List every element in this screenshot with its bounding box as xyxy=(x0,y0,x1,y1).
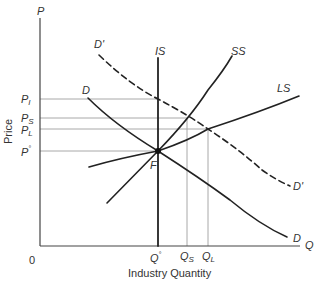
price-label-p-l: PL xyxy=(21,125,33,138)
quantity-label-q-l: QL xyxy=(202,251,215,264)
origin-label: 0 xyxy=(29,255,35,266)
curve-label-d-top: D xyxy=(82,85,90,96)
price-label-p-l-sub: L xyxy=(28,129,32,138)
curve-label-ls: LS xyxy=(277,83,290,94)
curve-label-d-bottom: D xyxy=(293,233,301,244)
point-label-f: F xyxy=(150,160,157,171)
equilibrium-point-f xyxy=(155,148,161,154)
quantity-label-q-zero-base: Q xyxy=(150,252,159,264)
price-label-p-zero-sup: ° xyxy=(28,145,31,152)
y-axis-title: Price xyxy=(3,119,14,144)
price-label-p-zero: P° xyxy=(21,145,31,158)
quantity-label-q-zero-sup: ° xyxy=(159,251,162,258)
price-label-p-i-sub: I xyxy=(28,98,30,107)
y-axis-symbol: P xyxy=(37,6,44,17)
axes xyxy=(40,18,300,246)
curve-label-d-prime-top: D' xyxy=(94,39,104,50)
quantity-label-q-l-base: Q xyxy=(202,250,211,262)
quantity-label-q-zero: Q° xyxy=(150,251,161,264)
curve-label-d-prime-bottom: D' xyxy=(293,181,303,192)
x-axis-symbol: Q xyxy=(305,240,314,251)
curve-label-is: IS xyxy=(155,46,165,57)
quantity-label-q-s-sub: S xyxy=(189,255,194,264)
price-label-p-i: PI xyxy=(21,94,31,107)
quantity-label-q-s: QS xyxy=(180,251,194,264)
quantity-label-q-l-sub: L xyxy=(211,255,215,264)
x-axis-title: Industry Quantity xyxy=(128,268,211,279)
quantity-label-q-s-base: Q xyxy=(180,250,189,262)
curve-label-ss: SS xyxy=(231,46,246,57)
supply-demand-diagram xyxy=(0,0,317,285)
curve-d-prime xyxy=(99,55,290,186)
guide-lines xyxy=(40,99,208,246)
curve-ls xyxy=(89,96,299,167)
